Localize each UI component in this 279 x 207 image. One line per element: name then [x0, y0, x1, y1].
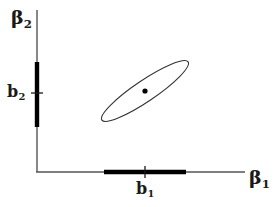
b1-label-subscript: 1 [147, 188, 154, 199]
b1-label-base: b [136, 179, 147, 198]
point-estimate-dot [142, 88, 147, 93]
confidence-region-figure: β2 β1 b2 b1 [0, 0, 279, 207]
y-axis-label-subscript: 2 [24, 17, 32, 31]
b2-label-subscript: 2 [18, 91, 25, 102]
b2-estimate-label: b2 [7, 84, 25, 100]
y-axis-label: β2 [11, 8, 32, 27]
x-axis-label-base: β [249, 166, 262, 188]
y-axis-label-base: β [11, 6, 24, 28]
b2-label-base: b [7, 82, 18, 101]
x-axis-label: β1 [249, 168, 270, 187]
figure-canvas [0, 0, 279, 207]
b1-estimate-label: b1 [136, 181, 154, 197]
x-axis-label-subscript: 1 [262, 177, 270, 191]
